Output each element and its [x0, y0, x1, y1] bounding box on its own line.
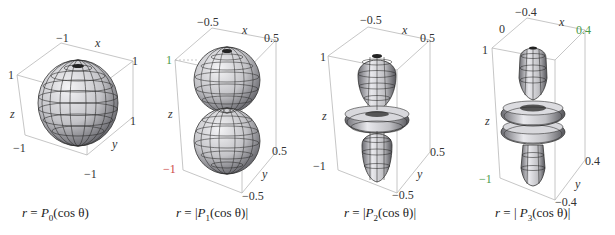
z-tick-max: 1	[166, 54, 172, 66]
caption-p3: r = | P3(cos θ)|	[495, 205, 570, 223]
x-axis-label: x	[95, 37, 100, 49]
z-tick-max: 1	[320, 51, 326, 63]
x-tick-min: −0.4	[515, 6, 537, 18]
x-axis-label: x	[242, 24, 247, 36]
caption-p1: r = |P1(cos θ)|	[176, 205, 248, 223]
x-tick-max: 0.5	[264, 32, 279, 44]
y-tick-max: 0.5	[430, 146, 445, 158]
plot-p2: −0.5 x 0.5 1 z −1 0.5 y −0.5 r = |P2(cos…	[300, 0, 460, 235]
y-tick-max: 1	[130, 115, 136, 127]
x-tick-max: 0.5	[420, 32, 435, 44]
x-tick-zero: 0	[499, 23, 505, 35]
z-tick-min: −1	[163, 163, 176, 175]
z-tick-min: −1	[313, 160, 326, 172]
x-tick-max: 1	[132, 55, 138, 67]
lobes-two-tori-surface	[455, 0, 615, 235]
y-tick-max: 0.5	[272, 145, 287, 157]
z-tick-max: 1	[8, 69, 14, 81]
x-tick-max: 0.4	[576, 24, 591, 36]
caption-p0: r = P0(cos θ)	[22, 205, 89, 223]
z-axis-label: z	[168, 108, 173, 120]
plot-p1: −0.5 x 0.5 1 z −1 0.5 y −0.5 r = |P1(cos…	[150, 0, 310, 235]
x-tick-min: −0.5	[360, 14, 382, 26]
two-lobe-surface	[150, 0, 310, 235]
y-axis-label: y	[417, 168, 422, 180]
y-tick-min: −0.5	[242, 190, 264, 202]
z-axis-label: z	[10, 108, 15, 120]
z-tick-min: −1	[479, 173, 492, 185]
z-tick-min: −1	[13, 142, 26, 154]
z-axis-label: z	[322, 110, 327, 122]
z-axis-label: z	[485, 115, 490, 127]
z-tick-max: 1	[482, 44, 488, 56]
plot-p0: −1 x 1 1 z −1 1 y −1 r = P0(cos θ)	[0, 0, 155, 235]
x-tick-min: −0.5	[197, 16, 219, 28]
y-axis-label: y	[112, 138, 117, 150]
plot-p3: −0.4 0 x 0.4 1 z −1 0.4 y −0.4 r = | P3(…	[455, 0, 615, 235]
caption-p2: r = |P2(cos θ)|	[344, 205, 416, 223]
y-tick-min: −1	[84, 168, 97, 180]
x-axis-label: x	[402, 24, 407, 36]
y-tick-max: 0.4	[585, 155, 600, 167]
x-axis-label: x	[559, 16, 564, 28]
x-tick-min: −1	[56, 32, 69, 44]
y-tick-min: −0.5	[392, 189, 414, 201]
y-axis-label: y	[575, 178, 580, 190]
y-axis-label: y	[262, 168, 267, 180]
